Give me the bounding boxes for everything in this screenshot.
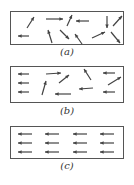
arrows-random-icon: [11, 12, 125, 46]
panel-c: [10, 126, 124, 159]
arrow-icon: [45, 150, 59, 153]
arrow-icon: [79, 87, 93, 90]
arrow-icon: [100, 150, 114, 153]
arrow-icon: [45, 132, 59, 135]
arrow-icon: [42, 81, 47, 95]
arrow-icon: [73, 150, 87, 153]
panel-b: [10, 66, 124, 103]
arrow-icon: [27, 17, 34, 28]
arrow-icon: [76, 19, 89, 22]
arrow-icon: [46, 17, 63, 20]
arrow-icon: [18, 81, 29, 84]
arrow-icon: [100, 132, 114, 135]
arrow-icon: [18, 34, 29, 37]
arrow-icon: [45, 141, 59, 144]
arrow-icon: [75, 34, 82, 44]
panel-label-c: (c): [0, 160, 134, 171]
arrow-icon: [67, 15, 72, 26]
arrow-icon: [18, 141, 32, 144]
arrow-icon: [105, 16, 108, 28]
arrow-icon: [18, 150, 32, 153]
arrow-icon: [18, 90, 29, 93]
arrow-icon: [73, 141, 87, 144]
arrow-icon: [92, 32, 105, 38]
panel-label-a: (a): [0, 46, 134, 57]
arrow-icon: [59, 75, 69, 83]
arrow-icon: [108, 77, 121, 85]
arrow-icon: [84, 69, 91, 80]
arrow-icon: [103, 90, 115, 93]
arrow-icon: [113, 16, 122, 26]
arrow-icon: [47, 30, 52, 43]
arrows-partial-icon: [11, 67, 125, 104]
arrow-icon: [111, 32, 120, 43]
arrow-icon: [60, 30, 69, 39]
panel-label-b: (b): [0, 105, 134, 116]
arrow-icon: [103, 71, 115, 74]
arrow-icon: [18, 72, 29, 75]
arrow-icon: [18, 132, 32, 135]
arrows-aligned-icon: [11, 127, 125, 160]
arrow-icon: [73, 132, 87, 135]
arrow-icon: [55, 92, 71, 95]
arrow-icon: [100, 141, 114, 144]
arrow-icon: [46, 72, 61, 75]
panel-a: [10, 11, 124, 45]
